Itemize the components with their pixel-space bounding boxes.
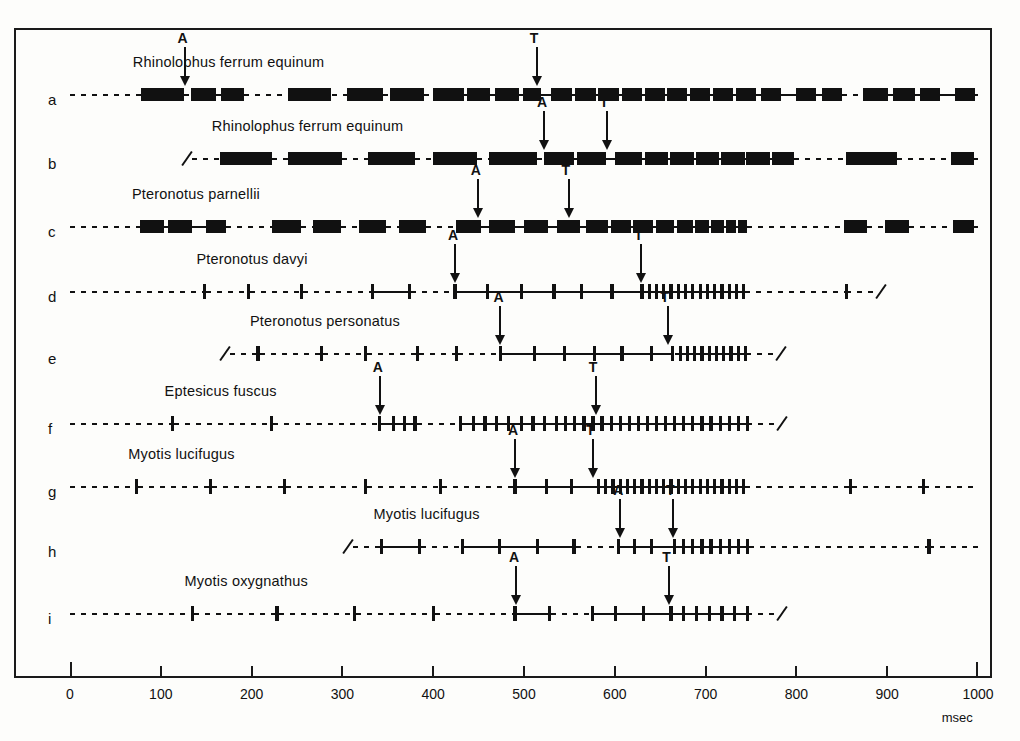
axis-tick bbox=[251, 666, 253, 676]
interval-solid bbox=[645, 613, 669, 615]
pulse-mark bbox=[220, 152, 273, 165]
pulse-mark bbox=[761, 88, 781, 101]
interval-solid bbox=[711, 613, 721, 615]
marker-arrowhead bbox=[180, 76, 190, 86]
interval-dashed bbox=[421, 546, 460, 548]
interval-dashed bbox=[342, 158, 367, 160]
interval-solid bbox=[501, 546, 536, 548]
pulse-mark bbox=[600, 416, 603, 431]
pulse-mark bbox=[746, 152, 770, 165]
pulse-mark bbox=[168, 220, 192, 233]
pulse-mark bbox=[656, 220, 674, 233]
species-label: Myotis oxygnathus bbox=[185, 573, 309, 589]
interval-dashed bbox=[537, 158, 544, 160]
species-label: Pteronotus davyi bbox=[196, 251, 307, 267]
interval-solid bbox=[383, 546, 418, 548]
pulse-mark bbox=[483, 416, 486, 431]
pulse-mark bbox=[736, 88, 756, 101]
species-label: Rhinolophus ferrum equinum bbox=[133, 54, 324, 70]
trace-lead-in bbox=[192, 158, 220, 160]
interval-dashed bbox=[367, 353, 416, 355]
pulse-mark bbox=[545, 479, 548, 494]
pulse-mark bbox=[459, 416, 462, 431]
interval-dashed bbox=[212, 486, 282, 488]
marker-label: A bbox=[509, 549, 519, 565]
pulse-mark bbox=[548, 606, 551, 621]
marker-label: T bbox=[662, 549, 671, 565]
trace-lead-in bbox=[70, 613, 193, 615]
interval-dashed bbox=[749, 546, 927, 548]
pulse-mark bbox=[611, 220, 631, 233]
marker-shaft bbox=[667, 306, 669, 336]
pulse-mark bbox=[256, 346, 259, 361]
pulse-mark bbox=[648, 284, 651, 299]
pulse-mark bbox=[699, 284, 702, 299]
interval-solid bbox=[653, 353, 672, 355]
pulse-mark bbox=[524, 220, 548, 233]
pulse-mark bbox=[513, 606, 516, 621]
marker-shaft bbox=[568, 179, 570, 209]
pulse-mark bbox=[728, 539, 731, 554]
pulse-mark bbox=[955, 88, 975, 101]
pulse-mark bbox=[418, 539, 421, 554]
interval-dashed bbox=[551, 613, 590, 615]
interval-solid bbox=[653, 546, 673, 548]
axis-tick bbox=[523, 666, 525, 676]
pulse-mark bbox=[628, 416, 631, 431]
interval-solid bbox=[481, 226, 489, 228]
pulse-trace-e bbox=[0, 337, 1020, 371]
trace-lead-out bbox=[975, 94, 978, 96]
marker-arrowhead bbox=[375, 405, 385, 415]
species-label: Pteronotus parnellii bbox=[132, 186, 260, 202]
pulse-mark bbox=[682, 539, 685, 554]
pulse-mark bbox=[706, 284, 709, 299]
pulse-mark bbox=[577, 152, 606, 165]
pulse-mark bbox=[520, 284, 523, 299]
axis-tick bbox=[705, 666, 707, 676]
pulse-mark bbox=[719, 416, 722, 431]
interval-solid bbox=[381, 423, 391, 425]
interval-dashed bbox=[458, 353, 498, 355]
pulse-mark bbox=[472, 416, 475, 431]
axis-tick-label: 900 bbox=[876, 686, 899, 702]
axis-tick-label: 300 bbox=[331, 686, 354, 702]
pulse-mark bbox=[744, 346, 747, 361]
pulse-mark bbox=[347, 88, 383, 101]
pulse-mark bbox=[846, 152, 897, 165]
interval-solid bbox=[517, 486, 546, 488]
marker-arrowhead bbox=[591, 405, 601, 415]
axis-tick-label: 100 bbox=[149, 686, 172, 702]
pulse-mark bbox=[456, 220, 481, 233]
marker-label: T bbox=[661, 289, 670, 305]
marker-arrowhead bbox=[564, 208, 574, 218]
pulse-mark bbox=[735, 479, 738, 494]
interval-solid bbox=[614, 291, 641, 293]
interval-dashed bbox=[367, 486, 439, 488]
pulse-mark bbox=[708, 606, 711, 621]
interval-solid bbox=[620, 546, 633, 548]
pulse-mark bbox=[575, 88, 596, 101]
marker-arrowhead bbox=[615, 528, 625, 538]
pulse-mark bbox=[275, 606, 278, 621]
interval-dashed bbox=[244, 94, 288, 96]
pulse-mark bbox=[439, 479, 442, 494]
interval-dashed bbox=[477, 158, 490, 160]
axis-break-mark bbox=[777, 606, 788, 621]
pulse-mark bbox=[640, 284, 643, 299]
pulse-mark bbox=[708, 346, 711, 361]
pulse-mark bbox=[300, 284, 303, 299]
interval-dashed bbox=[424, 94, 433, 96]
interval-dashed bbox=[272, 158, 287, 160]
pulse-mark bbox=[637, 416, 640, 431]
interval-solid bbox=[502, 353, 533, 355]
interval-solid bbox=[498, 423, 507, 425]
pulse-mark bbox=[364, 346, 367, 361]
pulse-mark bbox=[669, 606, 672, 621]
trace-lead-in bbox=[230, 353, 258, 355]
axis-tick bbox=[795, 666, 797, 676]
pulse-mark bbox=[591, 606, 594, 621]
interval-solid bbox=[617, 613, 642, 615]
pulse-mark bbox=[467, 88, 491, 101]
axis-tick-label: 400 bbox=[422, 686, 445, 702]
pulse-mark bbox=[272, 220, 301, 233]
